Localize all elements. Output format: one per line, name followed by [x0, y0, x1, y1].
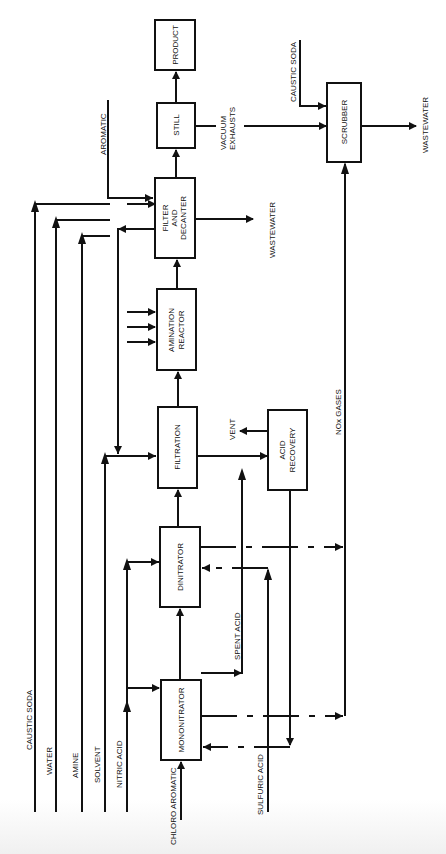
scrubber-caustic-feed: [300, 40, 326, 110]
unit-amination-reactor: AMINATION REACTOR: [157, 289, 196, 370]
label-aromatic: AROMATIC: [99, 113, 108, 155]
unit-product: PRODUCT: [155, 20, 195, 70]
label-nitric-acid: NITRIC ACID: [115, 740, 124, 788]
unit-label: PRODUCT: [171, 25, 180, 65]
solvent-recycle-line: [114, 225, 155, 454]
unit-acid-recovery: ACID RECOVERY: [268, 410, 307, 490]
unit-mononitrator: MONONITRATOR: [161, 680, 201, 760]
solvent-feed: [101, 452, 156, 812]
amination-feed-arrows: [35, 304, 155, 342]
label-nox-gases: NOx GASES: [334, 389, 343, 435]
label-wastewater-scrubber: WASTEWATER: [421, 97, 430, 153]
unit-label: RECOVERY: [288, 427, 297, 472]
unit-label: ACID: [278, 440, 287, 459]
unit-still: STILL: [157, 103, 195, 148]
label-water: WATER: [45, 747, 54, 775]
label-chloro-aromatic: CHLORO AROMATIC: [169, 767, 178, 845]
label-sulfuric-acid: SULFURIC ACID: [256, 754, 265, 815]
unit-filter-and-decanter: FILTER AND DECANTER: [155, 178, 195, 258]
unit-label: STILL: [172, 114, 181, 136]
acid-recovery-return: [203, 490, 290, 751]
unit-label: FILTER: [161, 204, 170, 231]
label-solvent: SOLVENT: [93, 746, 102, 783]
unit-label: AMINATION: [167, 308, 176, 352]
unit-label: SCRUBBER: [340, 100, 349, 145]
label-caustic-soda-scrubber: CAUSTIC SODA: [289, 41, 298, 102]
label-caustic-soda: CAUSTIC SODA: [25, 689, 34, 750]
unit-label: AND: [170, 209, 179, 226]
unit-label: DINITRATOR: [176, 543, 185, 591]
process-flow-diagram: PRODUCT STILL FILTER AND DECANTER AMINAT…: [0, 0, 446, 854]
nitric-acid-feed: [123, 558, 159, 812]
unit-scrubber: SCRUBBER: [327, 83, 361, 162]
aromatic-feed: [108, 100, 153, 202]
unit-label: FILTRATION: [173, 424, 182, 470]
unit-label: DECANTER: [179, 196, 188, 240]
label-vacuum: VACUUM: [219, 116, 228, 150]
unit-label: MONONITRATOR: [177, 687, 186, 752]
label-vent: VENT: [228, 419, 237, 440]
unit-label: REACTOR: [177, 310, 186, 349]
label-wastewater-decanter: WASTEWATER: [268, 202, 277, 258]
label-amine: AMINE: [71, 753, 80, 778]
label-exhausts: EXHAUSTS: [228, 107, 237, 150]
unit-filtration: FILTRATION: [158, 407, 197, 488]
unit-dinitrator: DINITRATOR: [160, 527, 200, 607]
label-spent-acid: SPENT ACID: [233, 612, 242, 660]
caustic-soda-feed: [31, 200, 155, 812]
